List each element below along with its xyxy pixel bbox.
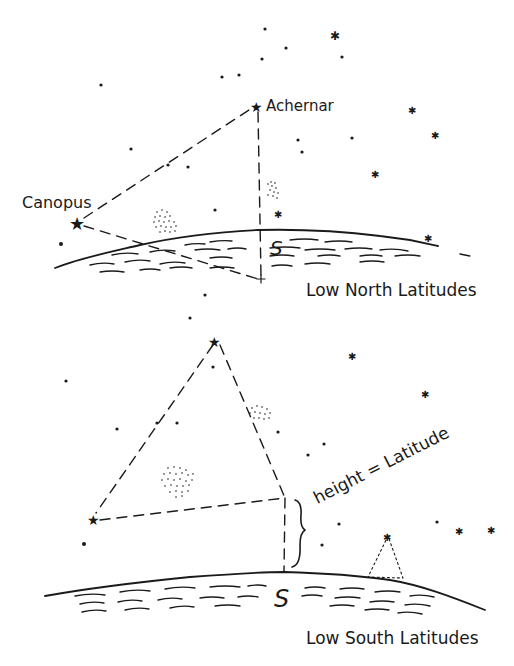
achernar-vertical-line xyxy=(258,112,261,276)
canopus-star-icon-bottom: ★ xyxy=(87,512,100,528)
star-icon: ✱ xyxy=(371,169,379,180)
star-icon: ✱ xyxy=(274,209,282,220)
star-icon: ✱ xyxy=(455,526,463,537)
achernar-label: Achernar xyxy=(266,97,334,115)
achernar-star-icon-bottom: ★ xyxy=(208,334,221,350)
achernar-descending-line xyxy=(220,345,285,498)
star-icon: ✱ xyxy=(348,351,356,362)
pole-marker xyxy=(257,275,265,283)
height-brace xyxy=(292,500,305,567)
south-marker-bottom: S xyxy=(274,585,289,613)
canopus-horizontal-line xyxy=(100,498,285,520)
star-icon: ✱ xyxy=(431,130,439,141)
canopus-label: Canopus xyxy=(22,193,92,212)
achernar-star-icon: ★ xyxy=(250,99,263,115)
sea-waves-bottom xyxy=(75,585,434,614)
canopus-achernar-line xyxy=(84,106,255,218)
south-marker-top: S xyxy=(270,236,283,260)
achernar-canopus-line xyxy=(96,345,213,513)
magellanic-cloud-large-top xyxy=(153,209,177,233)
height-vertical-line xyxy=(284,498,285,572)
diagram-canvas: ✱ ✱ ✱ ✱ ✱ ✱ xyxy=(0,0,514,666)
star-icon: ✱ xyxy=(487,525,495,536)
south-panel: ✱ ✱ ✱ ✱ ✱ xyxy=(45,334,495,614)
magellanic-cloud-small-top xyxy=(267,181,279,199)
star-icon: ✱ xyxy=(408,105,416,116)
star-icon: ✱ xyxy=(421,389,429,400)
horizon-extension xyxy=(460,254,470,256)
north-panel: ✱ ✱ ✱ ✱ ✱ ✱ xyxy=(55,27,470,319)
south-panel-caption: Low South Latitudes xyxy=(306,628,479,648)
canopus-star-icon: ★ xyxy=(69,213,85,234)
small-triangle-asterism xyxy=(368,536,403,578)
star-icon: ✱ xyxy=(330,29,340,43)
north-panel-caption: Low North Latitudes xyxy=(306,280,477,300)
sea-waves-top xyxy=(90,239,420,272)
magellanic-cloud-large-bottom xyxy=(161,466,194,498)
magellanic-cloud-small-bottom xyxy=(249,405,271,420)
